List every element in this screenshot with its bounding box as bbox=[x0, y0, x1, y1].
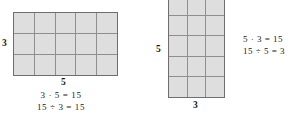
equations-right: 5 · 3 = 15 15 ÷ 5 = 3 bbox=[243, 34, 285, 57]
grid-cell bbox=[97, 55, 117, 75]
grid-cell bbox=[188, 57, 206, 77]
grid-cell bbox=[97, 34, 117, 54]
grid-cell bbox=[56, 13, 76, 33]
grid-cell bbox=[76, 13, 96, 33]
grid-cell bbox=[169, 0, 187, 15]
grid-cell bbox=[188, 77, 206, 97]
equation-division-left: 15 ÷ 3 = 15 bbox=[37, 102, 85, 114]
grid-cell bbox=[206, 0, 224, 15]
grid-cell bbox=[206, 57, 224, 77]
grid-cell bbox=[56, 55, 76, 75]
grid-cell bbox=[35, 13, 55, 33]
grid-cell bbox=[188, 36, 206, 56]
dimension-label-right-height: 5 bbox=[156, 44, 161, 54]
grid-cell bbox=[188, 0, 206, 15]
equation-multiplication-left: 3 · 5 = 15 bbox=[37, 90, 85, 102]
grid-cell bbox=[35, 34, 55, 54]
grid-cell bbox=[188, 16, 206, 36]
grid-cell bbox=[169, 36, 187, 56]
equation-division-right: 15 ÷ 5 = 3 bbox=[243, 46, 285, 58]
dimension-label-left-height: 3 bbox=[2, 38, 7, 48]
grid-cell bbox=[76, 34, 96, 54]
grid-cell bbox=[56, 34, 76, 54]
grid-cell bbox=[14, 55, 34, 75]
grid-cell bbox=[206, 16, 224, 36]
grid-cell bbox=[169, 57, 187, 77]
grid-cell bbox=[169, 77, 187, 97]
grid-cell bbox=[97, 13, 117, 33]
grid-cell bbox=[35, 55, 55, 75]
dimension-label-left-width: 5 bbox=[61, 77, 66, 87]
equation-multiplication-right: 5 · 3 = 15 bbox=[243, 34, 285, 46]
equations-left: 3 · 5 = 15 15 ÷ 3 = 15 bbox=[37, 90, 85, 113]
grid-cell bbox=[76, 55, 96, 75]
array-grid-right bbox=[168, 0, 225, 98]
grid-cell bbox=[14, 13, 34, 33]
figure-stage: 3 5 3 · 5 = 15 15 ÷ 3 = 15 5 3 5 · 3 = 1… bbox=[0, 0, 305, 118]
array-grid-left bbox=[13, 12, 118, 76]
grid-cell bbox=[14, 34, 34, 54]
grid-cell bbox=[169, 16, 187, 36]
grid-cell bbox=[206, 77, 224, 97]
grid-cell bbox=[206, 36, 224, 56]
dimension-label-right-width: 3 bbox=[193, 100, 198, 110]
